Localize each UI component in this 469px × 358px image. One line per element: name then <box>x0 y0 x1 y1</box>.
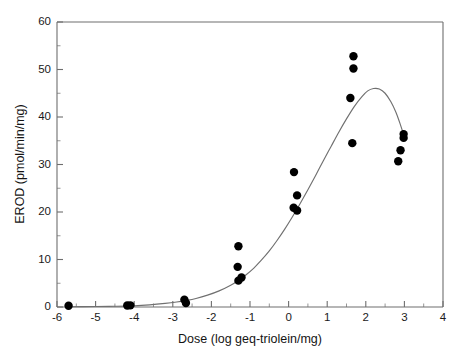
data-point <box>349 64 357 72</box>
data-point <box>396 146 404 154</box>
scatter-plot: 0102030405060 -6-5-4-3-2-101234 Dose (lo… <box>0 0 469 358</box>
x-tick-label: -4 <box>129 311 140 323</box>
y-axis-title: EROD (pmol/min/mg) <box>13 104 27 223</box>
y-tick-label: 10 <box>38 253 51 265</box>
x-tick-label: -3 <box>168 311 178 323</box>
y-tick-label: 20 <box>38 205 51 217</box>
x-tick-label: -6 <box>52 311 62 323</box>
y-tick-label: 50 <box>38 63 51 75</box>
y-tick-labels: 0102030405060 <box>38 15 51 312</box>
data-point <box>290 168 298 176</box>
data-point <box>293 191 301 199</box>
y-tick-label: 40 <box>38 110 51 122</box>
y-tick-label: 60 <box>38 15 51 27</box>
data-point <box>237 273 245 281</box>
data-point <box>399 134 407 142</box>
x-tick-label: -2 <box>206 311 216 323</box>
data-point <box>64 302 72 310</box>
major-ticks-group <box>57 22 443 307</box>
x-axis-title: Dose (log geq-triolein/mg) <box>178 332 322 346</box>
data-point <box>349 52 357 60</box>
fitted-curve <box>67 88 406 306</box>
x-tick-label: -1 <box>245 311 255 323</box>
x-tick-label: 1 <box>324 311 330 323</box>
data-point <box>126 301 134 309</box>
y-tick-label: 30 <box>38 158 51 170</box>
x-tick-labels: -6-5-4-3-2-101234 <box>52 311 447 323</box>
data-point <box>293 206 301 214</box>
data-point <box>348 139 356 147</box>
data-point <box>394 157 402 165</box>
x-tick-label: -5 <box>90 311 100 323</box>
x-tick-label: 4 <box>440 311 447 323</box>
y-tick-label: 0 <box>45 300 51 312</box>
data-points-group <box>64 52 407 310</box>
x-tick-label: 2 <box>363 311 369 323</box>
data-point <box>346 94 354 102</box>
chart-figure: 0102030405060 -6-5-4-3-2-101234 Dose (lo… <box>0 0 469 358</box>
data-point <box>234 242 242 250</box>
data-point <box>233 263 241 271</box>
x-tick-label: 0 <box>285 311 291 323</box>
data-point <box>182 299 190 307</box>
x-tick-label: 3 <box>401 311 407 323</box>
